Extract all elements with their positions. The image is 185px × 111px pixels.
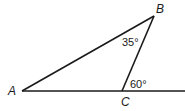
vertex-label-c: C [121,95,130,109]
angle-label-c: 60° [130,78,147,90]
vertex-label-a: A [7,84,16,98]
triangle-diagram: A B C 35° 60° [0,0,185,111]
angle-label-b: 35° [122,36,139,48]
vertex-label-b: B [156,2,164,16]
